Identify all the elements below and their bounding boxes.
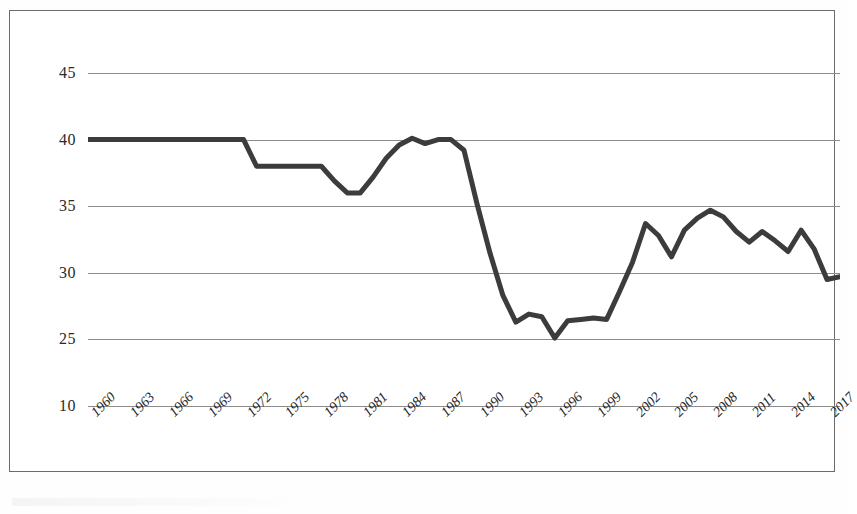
y-tick-label-45: 45 [36, 64, 76, 82]
plot-area [88, 73, 840, 406]
y-tick-label-25: 25 [36, 330, 76, 348]
series-line [88, 73, 840, 406]
y-tick-label-40: 40 [36, 131, 76, 149]
y-tick-label-10: 10 [36, 397, 76, 415]
y-tick-label-35: 35 [36, 197, 76, 215]
scan-artifact [12, 498, 312, 506]
chart-outer-frame: 454035302510 196019631966196919721975197… [9, 10, 835, 472]
y-axis-labels: 454035302510 [32, 73, 76, 406]
y-tick-label-30: 30 [36, 264, 76, 282]
x-axis-labels: 1960196319661969197219751978198119841987… [88, 409, 840, 479]
